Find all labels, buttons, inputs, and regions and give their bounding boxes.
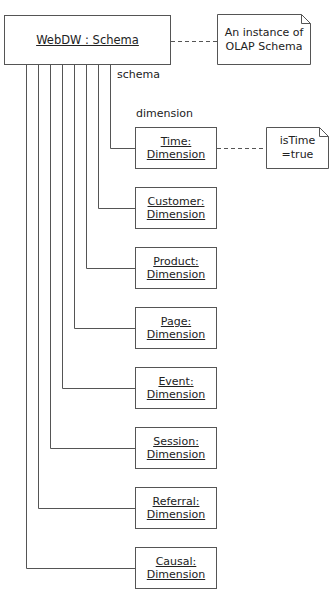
dimension-name: Customer:: [148, 195, 205, 208]
connector-causal: [27, 64, 136, 569]
schema-role-label: schema: [117, 68, 160, 81]
dimension-box-session[interactable]: Session: Dimension: [135, 427, 217, 469]
dimension-name: Event:: [158, 375, 193, 388]
connector-session: [51, 64, 136, 449]
dimension-box-event[interactable]: Event: Dimension: [135, 367, 217, 409]
dimension-type: Dimension: [147, 508, 205, 521]
schema-note-line2: OLAP Schema: [226, 40, 303, 54]
dimension-role-label: dimension: [136, 107, 193, 120]
dimension-name: Time:: [161, 135, 192, 148]
dimension-type: Dimension: [147, 448, 205, 461]
dimension-box-page[interactable]: Page: Dimension: [135, 307, 217, 349]
schema-object-label: WebDW : Schema: [36, 34, 139, 47]
schema-note[interactable]: An instance of OLAP Schema: [217, 14, 311, 65]
time-note[interactable]: isTime =true: [266, 127, 329, 169]
dimension-name: Session:: [153, 435, 199, 448]
dimension-type: Dimension: [147, 568, 205, 581]
dimension-type: Dimension: [147, 148, 205, 161]
dimension-box-time[interactable]: Time: Dimension: [135, 127, 217, 169]
dimension-box-product[interactable]: Product: Dimension: [135, 247, 217, 289]
dimension-box-referral[interactable]: Referral: Dimension: [135, 487, 217, 529]
connector-page: [75, 64, 136, 329]
time-note-line1: isTime: [280, 134, 316, 148]
schema-object-box[interactable]: WebDW : Schema: [4, 15, 171, 65]
dimension-box-causal[interactable]: Causal: Dimension: [135, 547, 217, 589]
dimension-type: Dimension: [147, 388, 205, 401]
dimension-type: Dimension: [147, 268, 205, 281]
dimension-name: Causal:: [156, 555, 197, 568]
dimension-name: Referral:: [153, 495, 200, 508]
connector-customer: [99, 64, 136, 209]
dimension-name: Page:: [161, 315, 191, 328]
dimension-name: Product:: [153, 255, 198, 268]
dimension-box-customer[interactable]: Customer: Dimension: [135, 187, 217, 229]
time-note-line2: =true: [282, 148, 314, 162]
dimension-type: Dimension: [147, 328, 205, 341]
dimension-type: Dimension: [147, 208, 205, 221]
schema-note-line1: An instance of: [225, 26, 304, 40]
